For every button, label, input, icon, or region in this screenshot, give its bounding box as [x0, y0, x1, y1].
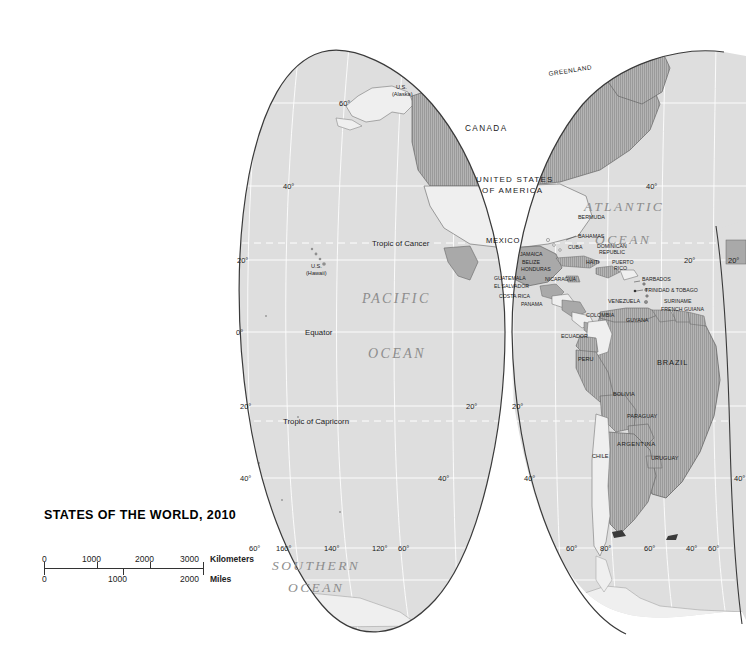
lat-label-20n-sliver: 20°: [728, 256, 739, 265]
lon-label-80w: 80°: [600, 544, 611, 553]
lat-label-0-left: 0°: [236, 328, 243, 337]
map-legend: STATES OF THE WORLD, 2010 0 1000 2000 30…: [44, 508, 259, 594]
map-lobe-americas: [505, 30, 746, 652]
lat-label-20s-right: 20°: [512, 402, 523, 411]
scale-label-mi-0: 0: [42, 574, 47, 584]
lon-label-160w: 160°: [276, 544, 292, 553]
country-label-colombia: COLOMBIA: [586, 312, 615, 318]
lat-label-60s-midleft: 60°: [398, 544, 409, 553]
scale-unit-kilometers: Kilometers: [210, 554, 254, 564]
country-label-bermuda: BERMUDA: [578, 214, 605, 220]
lat-label-20n-left: 20°: [237, 256, 248, 265]
scale-label-km-2000: 2000: [135, 554, 154, 564]
ocean-label-pacific-line2: OCEAN: [368, 346, 426, 361]
country-label-hawaii-line2: (Hawaii): [306, 270, 327, 276]
country-label-brazil: BRAZIL: [657, 358, 688, 367]
country-shape-canada-west: [412, 86, 505, 186]
label-tropic-of-capricorn: Tropic of Capricorn: [283, 417, 349, 426]
country-label-mexico: MEXICO: [486, 236, 520, 245]
country-label-dominican-line2: REPUBLIC: [599, 249, 625, 255]
country-label-cuba: CUBA: [568, 244, 583, 250]
country-label-haiti: HAITI: [586, 259, 599, 265]
lat-label-20n-right: 20°: [684, 256, 695, 265]
scale-label-mi-2000: 2000: [180, 574, 199, 584]
country-label-usa-line2: OF AMERICA: [482, 186, 543, 195]
scale-label-km-3000: 3000: [180, 554, 199, 564]
lon-label-120w: 120°: [372, 544, 388, 553]
country-label-canada: CANADA: [465, 124, 508, 133]
country-label-ecuador: ECUADOR: [561, 333, 588, 339]
country-label-guatemala: GUATEMALA: [494, 275, 526, 281]
scale-bar-line: [44, 568, 204, 569]
country-label-frenchguiana: FRENCH GUIANA: [661, 306, 704, 312]
page-title: STATES OF THE WORLD, 2010: [44, 508, 259, 522]
country-label-alaska-line2: (Alaska): [392, 91, 413, 97]
lon-label-140w: 140°: [324, 544, 340, 553]
lat-label-60s-right: 60°: [566, 544, 577, 553]
country-label-greenland: GREENLAND: [548, 63, 592, 77]
lat-label-40s-sliver: 40°: [734, 474, 745, 483]
lon-label-40w: 40°: [686, 544, 697, 553]
lat-label-40n-right: 40°: [646, 182, 657, 191]
country-label-elsalvador: EL SALVADOR: [494, 283, 529, 289]
country-label-alaska-line1: U.S.: [396, 84, 407, 90]
country-label-chile: CHILE: [592, 453, 609, 459]
ocean-label-atlantic-line1: ATLANTIC: [583, 199, 664, 214]
country-label-belize: BELIZE: [522, 259, 540, 265]
lat-label-40s-midleft: 40°: [438, 474, 449, 483]
scale-label-km-1000: 1000: [82, 554, 101, 564]
country-label-uruguay: URUGUAY: [651, 455, 679, 461]
country-shape-chile: [592, 414, 610, 556]
country-label-panama: PANAMA: [521, 301, 543, 307]
country-label-peru: PERU: [578, 356, 594, 362]
lat-label-20s-midleft: 20°: [466, 402, 477, 411]
country-label-nicaragua: NICARAGUA: [545, 276, 576, 282]
country-label-honduras: HONDURAS: [521, 266, 551, 272]
country-label-argentina: ARGENTINA: [617, 441, 656, 447]
lon-label-60w: 60°: [644, 544, 655, 553]
country-label-venezuela: VENEZUELA: [608, 298, 640, 304]
country-label-bolivia: BOLIVIA: [613, 391, 635, 397]
ocean-label-southern-line1: SOUTHERN: [272, 558, 360, 573]
world-map: PACIFIC OCEAN ATLANTIC OCEAN SOUTHERN OC…: [0, 0, 746, 672]
scale-label-mi-1000: 1000: [108, 574, 127, 584]
country-label-trinidad: TRINIDAD & TOBAGO: [645, 287, 698, 293]
lat-label-40n-left: 40°: [283, 182, 294, 191]
country-label-bahamas: BAHAMAS: [578, 233, 605, 239]
country-label-puertorico-line2: RICO: [614, 265, 627, 271]
country-label-barbados: BARBADOS: [642, 276, 671, 282]
lat-label-60n-left: 60°: [339, 99, 350, 108]
country-label-costarica: COSTA RICA: [499, 293, 531, 299]
lat-label-20s-left: 20°: [240, 402, 251, 411]
scale-bar: 0 1000 2000 3000 Kilometers 0 1000 2000 …: [44, 548, 212, 594]
country-label-paraguay: PARAGUAY: [627, 413, 658, 419]
label-equator: Equator: [305, 328, 333, 337]
ocean-label-southern-line2: OCEAN: [288, 580, 344, 595]
scale-unit-miles: Miles: [210, 574, 231, 584]
label-tropic-of-cancer: Tropic of Cancer: [372, 239, 430, 248]
country-label-guyana: GUYANA: [626, 317, 649, 323]
scale-tick-mi-2000: [203, 568, 204, 575]
lat-label-40s-left: 40°: [240, 474, 251, 483]
lat-label-40s-right: 40°: [524, 474, 535, 483]
country-label-usa-line1: UNITED STATES: [476, 175, 554, 184]
country-label-jamaica: JAMAICA: [520, 251, 543, 257]
ocean-label-pacific-line1: PACIFIC: [361, 291, 431, 306]
country-label-suriname: SURINAME: [664, 298, 692, 304]
country-label-hawaii-line1: U.S.: [311, 263, 322, 269]
lat-label-60s-sliver: 60°: [708, 544, 719, 553]
scale-label-km-0: 0: [42, 554, 47, 564]
